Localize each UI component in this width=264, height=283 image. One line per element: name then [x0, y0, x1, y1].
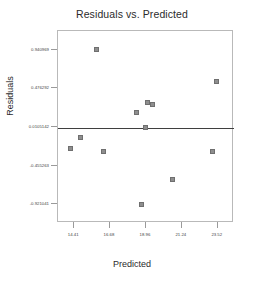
x-axis-tick-label: 16.68	[104, 232, 115, 237]
x-axis-tick-mark	[109, 222, 110, 228]
plot-area	[57, 30, 233, 222]
data-point-marker	[134, 110, 139, 115]
y-axis-tick-label: 0.940969	[1, 46, 49, 51]
data-point-marker	[139, 202, 144, 207]
x-axis-tick-mark	[73, 222, 74, 228]
x-axis-title: Predicted	[0, 259, 264, 269]
data-point-marker	[78, 135, 83, 140]
data-point-marker	[210, 149, 215, 154]
y-axis-tick-label: 0.476292	[1, 85, 49, 90]
data-point-marker	[214, 79, 219, 84]
y-axis-tick-label: -0.921041	[1, 201, 49, 206]
x-axis-tick-label: 21.24	[175, 232, 186, 237]
x-axis-tick-mark	[217, 222, 218, 228]
y-axis-title: Residuals	[5, 66, 15, 126]
residuals-vs-predicted-chart: Residuals vs. Predicted Residuals 0.9409…	[0, 0, 264, 283]
x-axis-tick-mark	[145, 222, 146, 228]
chart-title: Residuals vs. Predicted	[0, 8, 264, 20]
data-point-marker	[101, 149, 106, 154]
data-point-marker	[143, 125, 148, 130]
x-axis-tick-label: 14.41	[68, 232, 79, 237]
x-axis-tick-label: 23.52	[211, 232, 222, 237]
data-point-marker	[68, 146, 73, 151]
data-point-marker	[170, 177, 175, 182]
data-point-marker	[94, 47, 99, 52]
x-axis-tick-mark	[181, 222, 182, 228]
x-axis-tick-label: 18.96	[140, 232, 151, 237]
y-axis-tick-label: -0.455263	[1, 162, 49, 167]
y-axis-tick-label: 0.0105142	[1, 123, 49, 128]
data-point-marker	[150, 102, 155, 107]
